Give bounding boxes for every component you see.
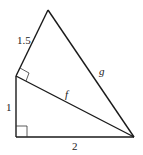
right-angle-marker-bottom-left <box>16 126 27 137</box>
geometry-diagram: 1.5 1 2 f g <box>0 0 143 155</box>
label-side-1: 1 <box>6 101 12 113</box>
label-side-1-5: 1.5 <box>17 34 31 46</box>
label-g: g <box>99 65 105 77</box>
label-side-2: 2 <box>72 140 78 152</box>
edge-g <box>48 10 134 137</box>
label-f: f <box>65 88 70 100</box>
edge-f <box>16 76 134 137</box>
